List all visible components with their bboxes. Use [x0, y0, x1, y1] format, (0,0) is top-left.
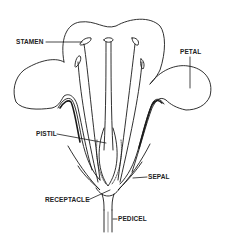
- leader-sepal: [133, 177, 147, 178]
- label-pedicel: PEDICEL: [118, 216, 147, 223]
- stigma: [104, 38, 113, 43]
- stamen-filament-3: [118, 44, 135, 180]
- label-sepal: SEPAL: [148, 174, 170, 181]
- label-pistil: PISTIL: [36, 131, 57, 138]
- label-receptacle: RECEPTACLE: [45, 197, 90, 204]
- anther-3: [132, 38, 139, 45]
- stamen-filament-1: [84, 44, 100, 180]
- petal-back: [63, 19, 165, 84]
- style-right: [111, 42, 113, 150]
- anther-1: [80, 38, 91, 45]
- petal-left: [14, 60, 92, 170]
- label-stamen: STAMEN: [16, 39, 44, 46]
- style-left: [104, 42, 106, 150]
- flower-diagram: STAMEN PETAL PISTIL SEPAL RECEPTACLE PED…: [0, 0, 226, 240]
- label-petal: PETAL: [180, 49, 201, 56]
- flower-drawing: [0, 0, 226, 240]
- anther-2: [75, 56, 81, 67]
